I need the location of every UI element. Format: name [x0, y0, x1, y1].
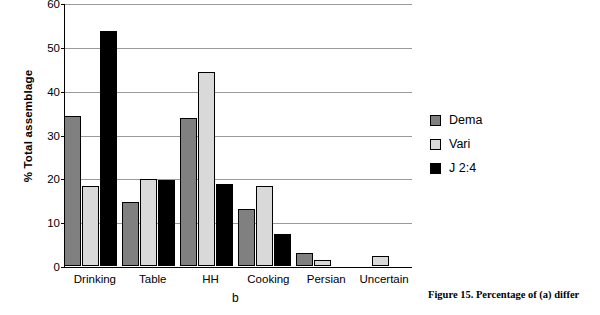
bar-group: HH: [182, 4, 240, 266]
y-tick-label: 60: [16, 0, 60, 10]
legend-label: J 2:4: [449, 161, 476, 175]
bars-layer: DrinkingTableHHCookingPersianUncertain: [66, 4, 412, 266]
y-tick-mark: [61, 4, 65, 5]
plot-area: 0102030405060 DrinkingTableHHCookingPers…: [64, 4, 412, 268]
legend-label: Vari: [449, 137, 470, 151]
x-tick-label: Drinking: [66, 273, 124, 285]
bar-group: Drinking: [66, 4, 124, 266]
legend-item: J 2:4: [430, 156, 540, 180]
bar: [122, 202, 139, 266]
legend-item: Vari: [430, 132, 540, 156]
bar-group: Cooking: [240, 4, 298, 266]
y-tick-label: 30: [16, 130, 60, 142]
sub-caption-label: b: [232, 291, 239, 305]
bar-group: Table: [124, 4, 182, 266]
bar: [180, 118, 197, 266]
bar: [296, 253, 313, 266]
y-tick-label: 0: [16, 261, 60, 273]
bar-group: Persian: [297, 4, 355, 266]
figure-caption: Figure 15. Percentage of (a) differ: [428, 289, 600, 301]
figure-container: % Total assemblage 0102030405060 Drinkin…: [0, 0, 600, 315]
legend-label: Dema: [449, 113, 482, 127]
y-tick-label: 20: [16, 173, 60, 185]
bar: [216, 184, 233, 266]
bar: [372, 256, 389, 266]
bar: [140, 179, 157, 266]
legend-swatch-icon: [430, 115, 441, 126]
legend-item: Dema: [430, 108, 540, 132]
bar: [314, 260, 331, 266]
x-tick-label: Persian: [297, 273, 355, 285]
bar: [158, 180, 175, 266]
bar: [256, 186, 273, 266]
y-tick-label: 50: [16, 42, 60, 54]
x-tick-label: Table: [124, 273, 182, 285]
y-tick-label: 40: [16, 86, 60, 98]
legend-swatch-icon: [430, 163, 441, 174]
bar: [82, 186, 99, 266]
legend-swatch-icon: [430, 139, 441, 150]
bar: [238, 209, 255, 266]
y-tick-mark: [61, 48, 65, 49]
bar: [198, 72, 215, 266]
bar: [100, 31, 117, 266]
y-tick-label: 10: [16, 217, 60, 229]
bar: [64, 116, 81, 266]
x-tick-label: Uncertain: [355, 273, 413, 285]
y-tick-mark: [61, 92, 65, 93]
x-tick-label: HH: [182, 273, 240, 285]
bar: [274, 234, 291, 266]
y-axis-title: % Total assemblage: [22, 36, 34, 216]
chart-legend: DemaVariJ 2:4: [430, 108, 540, 180]
x-tick-label: Cooking: [240, 273, 298, 285]
bar-group: Uncertain: [355, 4, 413, 266]
y-tick-mark: [61, 267, 65, 268]
